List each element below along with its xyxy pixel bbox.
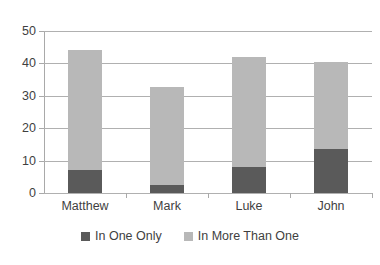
y-axis-tick-label: 10 — [2, 155, 36, 167]
bar-segment[interactable] — [68, 50, 102, 170]
y-axis-tick-mark — [39, 63, 44, 64]
bar-segment[interactable] — [232, 167, 266, 193]
y-axis-tick-mark — [39, 193, 44, 194]
y-axis-tick-mark — [39, 128, 44, 129]
stacked-bar-chart: 01020304050 MatthewMarkLukeJohn In One O… — [0, 0, 380, 265]
legend-entry[interactable]: In More Than One — [184, 230, 299, 243]
legend-label: In One Only — [95, 230, 162, 243]
x-axis-tick-label: Luke — [204, 199, 294, 214]
y-axis-tick-label: 0 — [2, 187, 36, 199]
y-axis-tick-label: 30 — [2, 90, 36, 102]
x-axis-tick-mark — [126, 193, 127, 198]
bar-segment[interactable] — [68, 170, 102, 193]
legend-swatch-icon — [81, 232, 90, 241]
bar-segment[interactable] — [150, 185, 184, 193]
y-axis-tick-label: 20 — [2, 122, 36, 134]
y-axis-tick-label: 40 — [2, 57, 36, 69]
x-axis-tick-mark — [290, 193, 291, 198]
y-axis-tick-mark — [39, 31, 44, 32]
bar-stack[interactable] — [150, 31, 184, 193]
bar-segment[interactable] — [314, 62, 348, 149]
x-axis-tick-mark — [208, 193, 209, 198]
bar-segment[interactable] — [150, 87, 184, 185]
bar-segment[interactable] — [232, 57, 266, 167]
y-axis-tick-mark — [39, 96, 44, 97]
x-axis-tick-mark — [372, 193, 373, 198]
bar-segment[interactable] — [314, 149, 348, 193]
legend-label: In More Than One — [198, 230, 299, 243]
x-axis-tick-label: John — [286, 199, 376, 214]
y-axis-tick-label: 50 — [2, 25, 36, 37]
x-axis-tick-label: Matthew — [40, 199, 130, 214]
x-axis-tick-label: Mark — [122, 199, 212, 214]
legend-entry[interactable]: In One Only — [81, 230, 162, 243]
bar-stack[interactable] — [314, 31, 348, 193]
y-axis-label-group: 01020304050 — [0, 0, 36, 265]
bar-stack[interactable] — [68, 31, 102, 193]
chart-legend: In One OnlyIn More Than One — [0, 230, 380, 243]
bar-stack[interactable] — [232, 31, 266, 193]
plot-area — [44, 31, 372, 193]
y-axis-tick-mark — [39, 161, 44, 162]
legend-swatch-icon — [184, 232, 193, 241]
